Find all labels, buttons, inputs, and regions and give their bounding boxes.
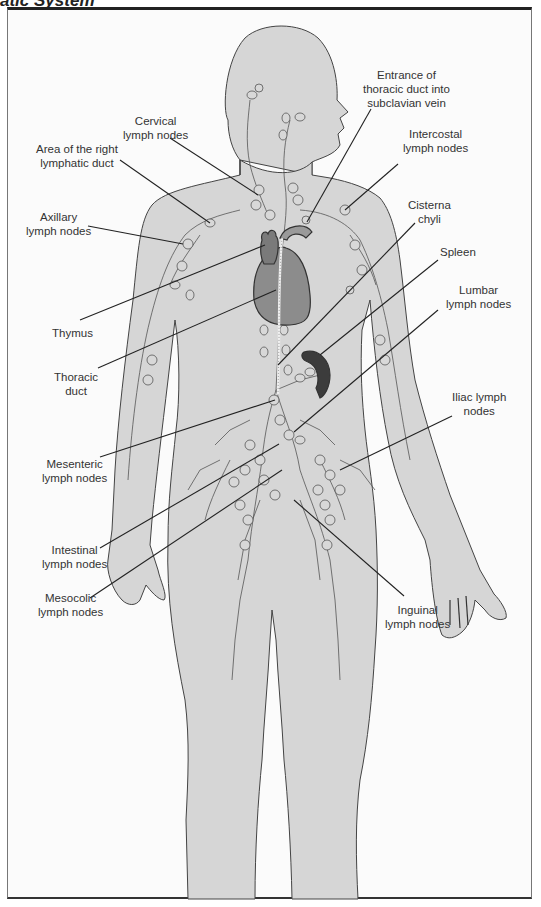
label-line: chyli <box>408 212 451 226</box>
label-line: Iliac lymph <box>452 390 506 404</box>
label-iliac-lymph-nodes: Iliac lymph nodes <box>452 390 506 418</box>
label-line: lymph nodes <box>26 224 91 238</box>
head <box>225 26 348 175</box>
label-thoracic-duct: Thoracic duct <box>54 370 98 398</box>
label-line: Mesocolic <box>38 591 103 605</box>
body-silhouette <box>108 26 507 899</box>
label-axillary-lymph-nodes: Axillary lymph nodes <box>26 210 91 238</box>
label-line: nodes <box>452 404 506 418</box>
label-thymus: Thymus <box>52 326 93 340</box>
label-right-lymphatic-duct: Area of the right lymphatic duct <box>36 142 118 170</box>
label-cisterna-chyli: Cisterna chyli <box>408 198 451 226</box>
thymus <box>261 230 278 264</box>
label-line: Thoracic <box>54 370 98 384</box>
label-line: Thymus <box>52 326 93 340</box>
label-entrance-thoracic-duct: Entrance of thoracic duct into subclavia… <box>363 68 450 110</box>
label-line: duct <box>54 384 98 398</box>
label-intestinal-lymph-nodes: Intestinal lymph nodes <box>42 543 107 571</box>
label-cervical-lymph-nodes: Cervical lymph nodes <box>123 114 188 142</box>
label-line: Mesenteric <box>42 457 107 471</box>
label-line: lymphatic duct <box>36 156 118 170</box>
label-line: Axillary <box>26 210 91 224</box>
label-lumbar-lymph-nodes: Lumbar lymph nodes <box>446 283 511 311</box>
label-line: lymph nodes <box>123 128 188 142</box>
label-line: lymph nodes <box>403 141 468 155</box>
label-line: lymph nodes <box>385 617 450 631</box>
torso <box>108 160 507 899</box>
label-line: Cervical <box>123 114 188 128</box>
label-line: subclavian vein <box>363 96 450 110</box>
label-line: Spleen <box>440 245 476 259</box>
label-line: lymph nodes <box>42 471 107 485</box>
label-mesenteric-lymph-nodes: Mesenteric lymph nodes <box>42 457 107 485</box>
label-intercostal-lymph-nodes: Intercostal lymph nodes <box>403 127 468 155</box>
label-line: Inguinal <box>385 603 450 617</box>
label-line: lymph nodes <box>38 605 103 619</box>
label-inguinal-lymph-nodes: Inguinal lymph nodes <box>385 603 450 631</box>
label-line: Entrance of <box>363 68 450 82</box>
label-line: Lumbar <box>446 283 511 297</box>
label-line: thoracic duct into <box>363 82 450 96</box>
label-line: lymph nodes <box>42 557 107 571</box>
label-spleen: Spleen <box>440 245 476 259</box>
label-line: lymph nodes <box>446 297 511 311</box>
label-line: Intestinal <box>42 543 107 557</box>
label-line: Area of the right <box>36 142 118 156</box>
label-line: Intercostal <box>403 127 468 141</box>
label-line: Cisterna <box>408 198 451 212</box>
label-mesocolic-lymph-nodes: Mesocolic lymph nodes <box>38 591 103 619</box>
